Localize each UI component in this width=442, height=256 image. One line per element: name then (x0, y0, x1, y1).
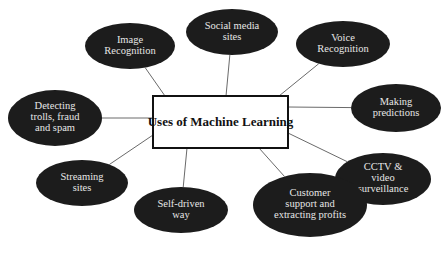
node-detecting-trolls: Detectingtrolls, fraudand spam (8, 90, 102, 146)
center-node: Uses of Machine Learning (148, 96, 294, 148)
node-voice-recognition: VoiceRecognition (296, 21, 390, 67)
node-image-recognition: ImageRecognition (85, 23, 175, 69)
node-label-line: Voice (331, 32, 355, 43)
node-label-line: video (371, 172, 394, 183)
node-label-line: Making (380, 96, 413, 107)
center-title: Uses of Machine Learning (148, 114, 294, 129)
connector-cctv-video-surveillance (288, 133, 347, 162)
connector-voice-recognition (279, 64, 319, 96)
node-label-line: way (172, 209, 190, 220)
node-self-driven-way: Self-drivenway (134, 187, 228, 233)
connector-streaming-sites (109, 135, 153, 165)
node-social-media-sites: Social mediasites (186, 9, 278, 55)
connector-self-driven-way (183, 148, 187, 187)
connector-image-recognition (145, 68, 165, 96)
node-label-line: Streaming (60, 171, 104, 182)
node-label-line: Self-driven (157, 198, 205, 209)
node-label-line: and spam (35, 122, 75, 133)
node-customer-support: Customersupport andextracting profits (253, 173, 367, 237)
node-label-line: CCTV & (364, 161, 403, 172)
machine-learning-mind-map: ImageRecognitionSocial mediasitesVoiceRe… (0, 0, 442, 256)
node-label-line: Recognition (317, 43, 369, 54)
connector-making-predictions (288, 107, 351, 108)
node-label-line: extracting profits (274, 209, 346, 220)
node-label-line: Social media (205, 20, 260, 31)
node-label-line: surveillance (358, 183, 409, 194)
node-label-line: Image (117, 34, 144, 45)
node-label-line: sites (73, 182, 92, 193)
node-label-line: sites (223, 31, 242, 42)
connector-social-media-sites (226, 55, 230, 96)
connector-customer-support (259, 148, 284, 176)
node-label-line: trolls, fraud (31, 111, 81, 122)
node-label-line: predictions (373, 107, 420, 118)
node-label-line: support and (285, 198, 335, 209)
node-label-line: Detecting (35, 100, 77, 111)
node-label-line: Recognition (104, 45, 156, 56)
node-making-predictions: Makingpredictions (351, 84, 441, 132)
node-label-line: Customer (290, 187, 331, 198)
node-streaming-sites: Streamingsites (36, 160, 128, 206)
